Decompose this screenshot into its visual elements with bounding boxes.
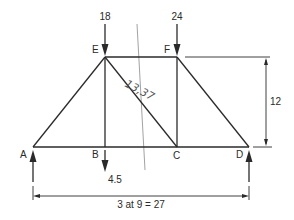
truss-members	[33, 57, 249, 147]
height-dimension	[185, 57, 272, 147]
reaction-arrows	[30, 150, 253, 182]
member-ae	[33, 57, 105, 147]
node-label-c: C	[173, 150, 180, 161]
height-label: 12	[270, 96, 282, 107]
span-dimension	[33, 186, 249, 200]
load-label-e: 18	[99, 11, 111, 22]
load-label-b: 4.5	[108, 174, 122, 185]
node-label-a: A	[20, 149, 27, 160]
load-label-f: 24	[171, 11, 183, 22]
node-label-b: B	[92, 149, 99, 160]
node-label-f: F	[164, 44, 170, 55]
truss-diagram: 18 24 4.5 E F A B C D 12 3 at 9 = 27 13,…	[0, 0, 294, 220]
span-label: 3 at 9 = 27	[117, 199, 165, 210]
node-label-e: E	[92, 44, 99, 55]
member-ec	[105, 57, 177, 147]
member-fd	[177, 57, 249, 147]
node-label-d: D	[236, 149, 243, 160]
